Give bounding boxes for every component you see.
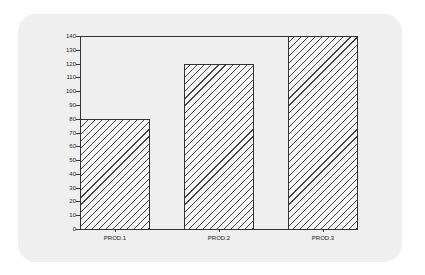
x-category-label: PROD.2 [189,235,249,241]
y-tick-label: 30 [69,185,76,191]
y-tick [76,105,80,106]
y-tick-label: 120 [66,61,76,67]
x-category-label: PROD.1 [85,235,145,241]
bar-prod3 [288,36,358,230]
y-tick-label: 20 [69,198,76,204]
bar-prod2 [184,64,254,230]
y-tick [76,77,80,78]
x-tick [323,229,324,232]
y-tick [76,36,80,37]
y-tick-label: 90 [69,102,76,108]
y-tick-label: 10 [69,212,76,218]
y-tick-label: 50 [69,157,76,163]
y-tick [76,50,80,51]
y-tick-label: 110 [66,74,76,80]
y-tick-label: 70 [69,130,76,136]
x-tick [219,229,220,232]
y-tick-label: 130 [66,47,76,53]
y-tick [76,64,80,65]
y-tick-label: 40 [69,171,76,177]
y-tick-label: 60 [69,143,76,149]
bar-prod1 [80,119,150,230]
y-tick-label: 100 [66,88,76,94]
y-tick-label: 0 [73,226,76,232]
x-tick [115,229,116,232]
y-tick-label: 140 [66,33,76,39]
x-category-label: PROD.3 [293,235,353,241]
y-tick-label: 80 [69,116,76,122]
y-tick [76,91,80,92]
